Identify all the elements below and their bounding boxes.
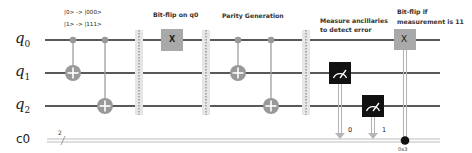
- correct-annotation-line2: measurement is 11: [397, 18, 464, 26]
- barrier-1: [135, 30, 143, 115]
- correct-annotation-line1: Bit-flip if: [397, 8, 427, 16]
- x-gate-conditional: [394, 29, 416, 145]
- control-dot-icon: [268, 37, 275, 44]
- x-gate-error-label: X: [169, 35, 175, 44]
- measure-q2: [362, 95, 384, 139]
- barrier-3: [302, 30, 310, 115]
- bus-slash-icon: [61, 136, 65, 145]
- control-dot-icon: [235, 37, 242, 44]
- cnot-encode-q0-q2: [97, 37, 113, 114]
- cnot-parity-q0-q1: [230, 37, 246, 81]
- arrow-down-icon: [368, 133, 378, 139]
- wire-label-q2: q2: [15, 95, 30, 115]
- barrier-2: [202, 30, 210, 115]
- control-dot-icon: [102, 37, 109, 44]
- cnot-encode-q0-q1: [65, 37, 81, 81]
- bitflip-title: Bit-flip on q0: [153, 11, 198, 19]
- cnot-parity-q0-q2: [263, 37, 279, 114]
- wire-label-c0: c0: [16, 132, 30, 146]
- condition-value-label: 0x3: [398, 146, 407, 152]
- wire-label-q1: q1: [15, 62, 30, 82]
- encoding-annotation-line2: |1> -> |111>: [64, 19, 102, 30]
- encoding-annotation-line1: |0> -> |000>: [64, 7, 102, 18]
- wire-label-q0: q0: [15, 29, 30, 49]
- arrow-down-icon: [335, 133, 345, 139]
- x-gate-conditional-label: X: [401, 34, 407, 44]
- wire-c0: [47, 139, 440, 142]
- parity-title: Parity Generation: [222, 12, 284, 20]
- measure-annotation-line2: to detect error: [320, 26, 372, 34]
- measure-annotation-line1: Measure ancillaries: [320, 17, 388, 25]
- control-dot-icon: [70, 37, 77, 44]
- classical-bit-count: 2: [58, 129, 62, 136]
- measure-bit-1-label: 1: [382, 126, 386, 134]
- measure-bit-0-label: 0: [348, 126, 352, 134]
- classical-control-dot-icon: [401, 136, 410, 145]
